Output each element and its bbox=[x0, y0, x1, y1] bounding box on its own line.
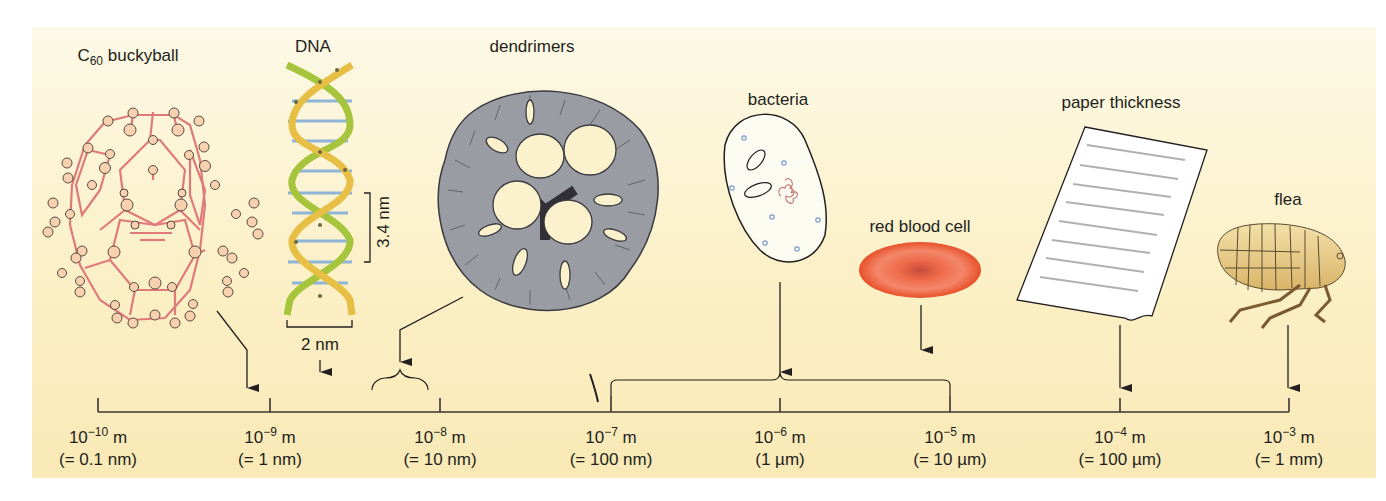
bacteria-label: bacteria bbox=[748, 90, 808, 110]
tick-label: 10−3 m(= 1 mm) bbox=[1255, 427, 1323, 471]
paper-icon bbox=[1017, 127, 1207, 320]
dendrimers-label: dendrimers bbox=[489, 37, 574, 57]
dendrimer-icon bbox=[438, 91, 658, 310]
scale-diagram bbox=[0, 0, 1386, 501]
red-blood-cell-icon bbox=[859, 242, 981, 298]
tick-label: 10−5 m(= 10 µm) bbox=[913, 427, 987, 471]
paper-thickness-label: paper thickness bbox=[1061, 93, 1180, 113]
buckyball-label: C60 buckyball bbox=[77, 46, 178, 68]
red-blood-cell-label: red blood cell bbox=[869, 217, 970, 237]
axis-break-mark bbox=[590, 374, 598, 402]
tick-label: 10−10 m(= 0.1 nm) bbox=[59, 427, 137, 471]
dna-pitch-label: 3.4 nm bbox=[374, 196, 394, 248]
flea-label: flea bbox=[1274, 190, 1301, 210]
dna-width-label: 2 nm bbox=[301, 335, 339, 355]
buckyball-atoms bbox=[43, 108, 263, 328]
tick-label: 10−4 m(= 100 µm) bbox=[1078, 427, 1161, 471]
tick-label: 10−9 m(= 1 nm) bbox=[238, 427, 302, 471]
dendrimer-pointer bbox=[400, 297, 463, 362]
micro-range-brace bbox=[611, 372, 950, 396]
dna-label: DNA bbox=[295, 37, 331, 57]
flea-icon bbox=[1218, 224, 1346, 328]
tick-label: 10−7 m(= 100 nm) bbox=[570, 427, 653, 471]
buckyball-pointer bbox=[217, 311, 247, 388]
bacteria-icon bbox=[724, 114, 826, 262]
dendrimer-range-brace bbox=[372, 370, 428, 390]
scale-axis bbox=[98, 396, 1289, 412]
tick-label: 10−6 m(1 µm) bbox=[754, 427, 806, 471]
dna-icon bbox=[287, 65, 370, 327]
tick-label: 10−8 m(= 10 nm) bbox=[403, 427, 476, 471]
